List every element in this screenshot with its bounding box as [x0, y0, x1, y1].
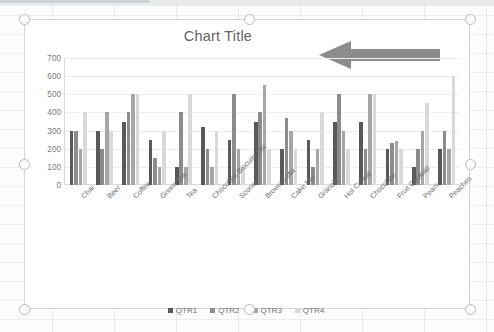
resize-handle-middle-right[interactable] — [465, 159, 476, 170]
bar-qtr4[interactable] — [162, 131, 166, 185]
bar-qtr3[interactable] — [447, 149, 451, 185]
x-axis-label: Tea — [184, 186, 199, 201]
y-axis-tick-label: 300 — [47, 126, 61, 135]
legend-label: QTR3 — [261, 306, 282, 315]
bar-qtr1[interactable] — [438, 149, 442, 185]
bar-qtr4[interactable] — [215, 131, 219, 185]
bar-qtr4[interactable] — [373, 94, 377, 185]
bar-qtr2[interactable] — [100, 149, 104, 185]
bar-qtr1[interactable] — [70, 131, 74, 185]
bar-group[interactable] — [355, 58, 381, 185]
y-axis-tick-label: 0 — [56, 181, 61, 190]
resize-handle-top-left[interactable] — [19, 14, 30, 25]
bar-qtr4[interactable] — [188, 94, 192, 185]
bar-group[interactable] — [381, 58, 407, 185]
bar-qtr2[interactable] — [443, 131, 447, 185]
bar-qtr2[interactable] — [127, 112, 131, 185]
legend-item-qtr1[interactable]: QTR1 — [168, 306, 197, 315]
y-axis-tick-label: 700 — [47, 54, 61, 63]
bar-qtr1[interactable] — [122, 122, 126, 186]
legend-item-qtr2[interactable]: QTR2 — [210, 306, 239, 315]
bar-series-container[interactable] — [65, 58, 460, 185]
bar-group[interactable] — [118, 58, 144, 185]
worksheet-top-strip-dark — [0, 0, 150, 3]
legend-item-qtr4[interactable]: QTR4 — [295, 306, 324, 315]
y-axis[interactable]: 7006005004003002001000 — [31, 58, 61, 184]
bar-qtr2[interactable] — [337, 94, 341, 185]
bar-qtr3[interactable] — [342, 131, 346, 185]
bar-qtr4[interactable] — [320, 112, 324, 185]
bar-qtr3[interactable] — [131, 94, 135, 185]
bar-group[interactable] — [302, 58, 328, 185]
bar-qtr4[interactable] — [346, 149, 350, 185]
resize-handle-bottom-right[interactable] — [465, 304, 476, 315]
chart-object[interactable]: Chart Title 7006005004003002001000 ChaiB… — [24, 19, 470, 309]
bar-qtr4[interactable] — [294, 149, 298, 185]
bar-group[interactable] — [91, 58, 117, 185]
legend-swatch-icon — [295, 308, 300, 313]
bar-group[interactable] — [249, 58, 275, 185]
legend-label: QTR1 — [176, 306, 197, 315]
bar-qtr4[interactable] — [452, 76, 456, 185]
x-axis-category-labels[interactable]: ChaiBeerCoffeeGreen TeaTeaChocolate Bisc… — [65, 190, 460, 285]
y-axis-tick-label: 100 — [47, 162, 61, 171]
bar-qtr2[interactable] — [206, 149, 210, 185]
bar-group[interactable] — [65, 58, 91, 185]
y-axis-tick-label: 600 — [47, 72, 61, 81]
plot-area[interactable] — [65, 58, 460, 185]
bar-group[interactable] — [407, 58, 433, 185]
bar-qtr4[interactable] — [267, 149, 271, 185]
resize-handle-middle-left[interactable] — [19, 159, 30, 170]
y-axis-tick-label: 400 — [47, 108, 61, 117]
bar-group[interactable] — [328, 58, 354, 185]
legend-label: QTR4 — [303, 306, 324, 315]
bar-qtr3[interactable] — [105, 112, 109, 185]
bar-group[interactable] — [197, 58, 223, 185]
legend-swatch-icon — [168, 308, 173, 313]
y-axis-tick-label: 500 — [47, 90, 61, 99]
bar-qtr3[interactable] — [263, 85, 267, 185]
bar-qtr3[interactable] — [79, 149, 83, 185]
bar-group[interactable] — [276, 58, 302, 185]
bar-qtr4[interactable] — [136, 94, 140, 185]
resize-handle-top-center[interactable] — [244, 14, 255, 25]
bar-qtr1[interactable] — [149, 140, 153, 185]
bar-qtr3[interactable] — [210, 167, 214, 185]
bar-qtr2[interactable] — [74, 131, 78, 185]
bar-qtr3[interactable] — [158, 167, 162, 185]
legend-item-qtr3[interactable]: QTR3 — [253, 306, 282, 315]
y-axis-tick-label: 200 — [47, 144, 61, 153]
bar-qtr4[interactable] — [399, 149, 403, 185]
x-axis-label: Beer — [105, 183, 122, 200]
bar-group[interactable] — [434, 58, 460, 185]
plot-wrapper: 7006005004003002001000 ChaiBeerCoffeeGre… — [25, 50, 471, 310]
x-axis-label: Chai — [79, 183, 96, 200]
bar-qtr4[interactable] — [83, 112, 87, 185]
resize-handle-bottom-center[interactable] — [244, 304, 255, 315]
bar-qtr1[interactable] — [96, 131, 100, 185]
bar-group[interactable] — [144, 58, 170, 185]
resize-handle-top-right[interactable] — [465, 14, 476, 25]
bar-group[interactable] — [170, 58, 196, 185]
bar-qtr2[interactable] — [153, 158, 157, 185]
bar-qtr4[interactable] — [109, 131, 113, 185]
bar-qtr1[interactable] — [201, 127, 205, 185]
resize-handle-bottom-left[interactable] — [19, 304, 30, 315]
legend-swatch-icon — [210, 308, 215, 313]
legend-label: QTR2 — [218, 306, 239, 315]
